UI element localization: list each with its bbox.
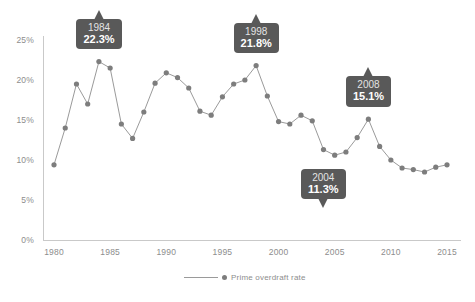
callout-pointer-icon — [318, 198, 328, 208]
data-point-1989[interactable] — [152, 81, 157, 86]
callout-pointer-icon — [363, 67, 373, 77]
callout-year: 1984 — [83, 22, 114, 33]
data-point-2001[interactable] — [287, 121, 292, 126]
x-tick-1985: 1985 — [93, 247, 127, 257]
callout-1984: 198422.3% — [76, 19, 121, 50]
data-point-1994[interactable] — [209, 113, 214, 118]
data-point-1992[interactable] — [186, 85, 191, 90]
data-point-1980[interactable] — [51, 162, 56, 167]
data-point-1987[interactable] — [130, 136, 135, 141]
callout-1998: 199821.8% — [234, 23, 279, 54]
callout-2008: 200815.1% — [346, 76, 391, 107]
data-point-1993[interactable] — [197, 109, 202, 114]
data-point-1995[interactable] — [220, 94, 225, 99]
data-point-2014[interactable] — [433, 165, 438, 170]
data-point-1985[interactable] — [108, 65, 113, 70]
x-tick-2005: 2005 — [318, 247, 352, 257]
callout-2004: 200411.3% — [301, 169, 346, 200]
data-point-2000[interactable] — [276, 119, 281, 124]
line-chart: 0%5%10%15%20%25% 19801985199019952000200… — [0, 0, 475, 302]
data-point-2010[interactable] — [388, 157, 393, 162]
callout-value: 11.3% — [308, 183, 339, 195]
callout-pointer-icon — [94, 10, 104, 20]
callout-value: 21.8% — [241, 37, 272, 49]
x-tick-2000: 2000 — [262, 247, 296, 257]
data-point-1999[interactable] — [265, 93, 270, 98]
callout-value: 15.1% — [353, 90, 384, 102]
chart-legend: Prime overdraft rate — [184, 273, 306, 282]
data-point-2009[interactable] — [377, 144, 382, 149]
data-point-1990[interactable] — [164, 70, 169, 75]
legend-label: Prime overdraft rate — [231, 273, 306, 282]
data-point-2013[interactable] — [422, 169, 427, 174]
data-point-1988[interactable] — [141, 109, 146, 114]
callout-pointer-icon — [251, 14, 261, 24]
data-point-1983[interactable] — [85, 101, 90, 106]
x-tick-1980: 1980 — [37, 247, 71, 257]
data-point-2002[interactable] — [298, 113, 303, 118]
legend-marker-dot — [222, 275, 227, 280]
callout-year: 1998 — [241, 26, 272, 37]
data-point-1991[interactable] — [175, 75, 180, 80]
data-point-2003[interactable] — [310, 118, 315, 123]
data-point-2012[interactable] — [411, 167, 416, 172]
data-point-2007[interactable] — [355, 135, 360, 140]
data-point-2011[interactable] — [399, 165, 404, 170]
x-tick-1990: 1990 — [149, 247, 183, 257]
x-tick-1995: 1995 — [205, 247, 239, 257]
data-point-1996[interactable] — [231, 81, 236, 86]
callout-year: 2008 — [353, 79, 384, 90]
data-point-2015[interactable] — [444, 162, 449, 167]
data-point-2004[interactable] — [321, 147, 326, 152]
data-point-1998[interactable] — [254, 63, 259, 68]
data-point-2008[interactable] — [366, 117, 371, 122]
data-point-2005[interactable] — [332, 153, 337, 158]
data-point-1981[interactable] — [63, 125, 68, 130]
callout-year: 2004 — [308, 172, 339, 183]
data-point-1982[interactable] — [74, 81, 79, 86]
data-point-2006[interactable] — [343, 149, 348, 154]
data-point-1986[interactable] — [119, 121, 124, 126]
x-tick-2015: 2015 — [430, 247, 464, 257]
x-tick-2010: 2010 — [374, 247, 408, 257]
data-point-1997[interactable] — [242, 77, 247, 82]
legend-line-swatch — [184, 277, 218, 278]
data-point-1984[interactable] — [96, 59, 101, 64]
callout-value: 22.3% — [83, 33, 114, 45]
